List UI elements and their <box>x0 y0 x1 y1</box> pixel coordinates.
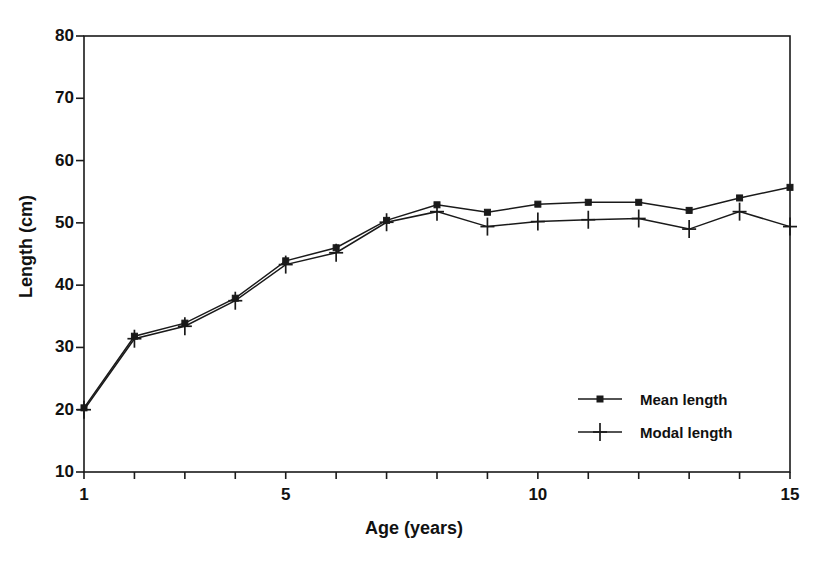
x-tick-label-5: 5 <box>281 485 290 505</box>
y-tick-label-70: 70 <box>22 88 74 108</box>
x-axis-ticks <box>84 472 790 479</box>
data-series-layer <box>77 184 797 418</box>
x-tick-label-15: 15 <box>781 485 800 505</box>
legend-marker-square <box>578 396 622 402</box>
legend-marker-plus <box>578 423 622 441</box>
legend-label-modal-length: Modal length <box>640 424 733 441</box>
y-tick-label-10: 10 <box>22 462 74 482</box>
legend-markers <box>578 396 622 441</box>
y-tick-label-20: 20 <box>22 400 74 420</box>
line-chart-plot <box>0 0 828 563</box>
x-axis-title: Age (years) <box>0 518 828 539</box>
legend-label-mean-length: Mean length <box>640 391 728 408</box>
chart-figure: 1510151020304050607080 Age (years) Lengt… <box>0 0 828 563</box>
series-modal-length <box>77 203 797 419</box>
y-axis-title: Length (cm) <box>16 137 37 357</box>
y-tick-label-80: 80 <box>22 26 74 46</box>
x-tick-label-10: 10 <box>528 485 547 505</box>
x-tick-label-1: 1 <box>79 485 88 505</box>
